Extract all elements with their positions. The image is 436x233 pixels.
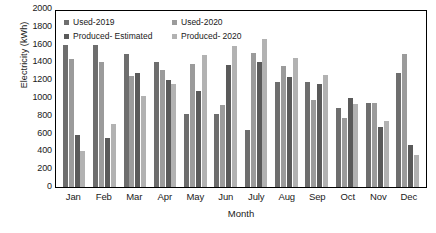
legend-label: Produced- 2020	[181, 31, 242, 41]
bar-group-sep	[302, 11, 332, 187]
legend-item[interactable]: Used-2020	[172, 17, 280, 27]
bar	[202, 55, 207, 187]
x-tick-jun: Jun	[211, 191, 242, 202]
bar	[93, 45, 98, 187]
bar	[372, 103, 377, 187]
bar	[99, 62, 104, 187]
y-tick-2000: 2000	[32, 4, 52, 13]
x-tick-dec: Dec	[394, 191, 425, 202]
legend-swatch-icon	[172, 34, 177, 39]
y-tick-400: 400	[37, 146, 52, 155]
bar	[408, 145, 413, 187]
bar	[105, 138, 110, 187]
y-tick-600: 600	[37, 128, 52, 137]
bar	[171, 84, 176, 187]
bar	[317, 84, 322, 187]
bar	[342, 118, 347, 187]
bar	[190, 64, 195, 187]
legend-label: Produced- Estimated	[73, 31, 152, 41]
legend-swatch-icon	[172, 20, 177, 25]
bar	[232, 46, 237, 188]
bar	[396, 73, 401, 187]
bar	[366, 103, 371, 187]
legend-swatch-icon	[64, 20, 69, 25]
bar	[305, 82, 310, 187]
bar	[336, 108, 341, 187]
bar-group-nov	[362, 11, 392, 187]
bar	[323, 75, 328, 187]
x-tick-sep: Sep	[302, 191, 333, 202]
bar	[160, 70, 165, 187]
legend-label: Used-2020	[181, 17, 223, 27]
x-tick-oct: Oct	[333, 191, 364, 202]
bar	[353, 104, 358, 187]
bar	[348, 98, 353, 187]
bar	[384, 121, 389, 187]
bar	[124, 54, 129, 188]
bar	[275, 82, 280, 187]
bar	[184, 114, 189, 187]
bar	[414, 155, 419, 187]
bar	[245, 130, 250, 187]
legend-item[interactable]: Used-2019	[64, 17, 172, 27]
bar	[196, 91, 201, 187]
x-tick-july: July	[241, 191, 272, 202]
x-tick-nov: Nov	[363, 191, 394, 202]
bar	[80, 151, 85, 187]
legend-swatch-icon	[64, 34, 69, 39]
bar	[378, 127, 383, 187]
bar	[141, 96, 146, 187]
y-tick-800: 800	[37, 110, 52, 119]
bar	[226, 65, 231, 187]
bar	[287, 77, 292, 187]
y-tick-1600: 1600	[32, 39, 52, 48]
y-tick-200: 200	[37, 164, 52, 173]
legend-item[interactable]: Produced- Estimated	[64, 31, 172, 41]
y-tick-0: 0	[47, 182, 52, 191]
x-axis-title: Month	[55, 208, 427, 219]
bar	[111, 124, 116, 187]
legend-item[interactable]: Produced- 2020	[172, 31, 280, 41]
bar	[129, 76, 134, 187]
bar	[402, 54, 407, 187]
bar	[220, 105, 225, 187]
bar	[63, 45, 68, 187]
bar	[214, 114, 219, 187]
x-axis-tick-labels: JanFebMarAprMayJunJulyAugSepOctNovDec	[55, 191, 427, 202]
bar	[311, 100, 316, 187]
y-tick-1800: 1800	[32, 21, 52, 30]
bar	[251, 53, 256, 187]
bar-chart: Electricity (kWh) 2000180016001400120010…	[0, 0, 436, 233]
bar	[135, 73, 140, 187]
y-tick-1400: 1400	[32, 57, 52, 66]
y-axis-tick-labels: 2000180016001400120010008006004002000	[18, 8, 52, 188]
bar	[293, 58, 298, 187]
chart-legend: Used-2019Used-2020Produced- EstimatedPro…	[64, 15, 280, 43]
x-tick-jan: Jan	[58, 191, 89, 202]
bar	[281, 66, 286, 187]
x-tick-aug: Aug	[272, 191, 303, 202]
bar	[154, 62, 159, 187]
bar-group-dec	[393, 11, 423, 187]
bar	[257, 62, 262, 187]
x-tick-may: May	[180, 191, 211, 202]
bar	[75, 135, 80, 188]
y-tick-1000: 1000	[32, 93, 52, 102]
bar	[262, 39, 267, 187]
plot-area: Used-2019Used-2020Produced- EstimatedPro…	[55, 10, 427, 188]
y-tick-1200: 1200	[32, 75, 52, 84]
bar	[69, 59, 74, 187]
bar	[166, 80, 171, 187]
bar-group-oct	[332, 11, 362, 187]
legend-label: Used-2019	[73, 17, 115, 27]
x-tick-apr: Apr	[150, 191, 181, 202]
x-tick-feb: Feb	[89, 191, 120, 202]
x-tick-mar: Mar	[119, 191, 150, 202]
